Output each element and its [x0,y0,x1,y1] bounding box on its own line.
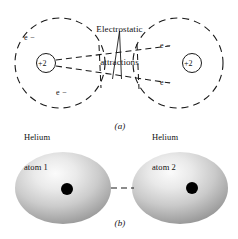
right-atom-caption-line-2: atom 2 [152,162,224,172]
left-atom-electron-upper-label: e − [24,33,35,43]
left-nucleus-charge-label: +2 [38,59,47,69]
left-atom-caption-line-2: atom 1 [24,162,96,172]
title-line-2: attractions [77,57,162,68]
left-atom-caption: Helium atom 1 [24,112,96,192]
right-atom-caption-line-1: Helium [152,132,224,142]
figure-container: Electrostatic attractions +2 +2 e − e − … [0,0,238,239]
right-atom-caption: Helium atom 2 [152,112,224,192]
right-atom-electron-lower-label: e − [160,78,171,88]
right-nucleus-charge-label: +2 [184,59,193,69]
electrostatic-attractions-title: Electrostatic attractions [77,2,162,90]
right-atom-electron-upper-label: e − [160,41,171,51]
part-b-label: (b) [108,219,132,229]
left-atom-electron-lower-label: e − [56,88,67,98]
title-line-1: Electrostatic [77,24,162,35]
part-a-label: (a) [108,122,132,132]
left-atom-caption-line-1: Helium [24,132,96,142]
